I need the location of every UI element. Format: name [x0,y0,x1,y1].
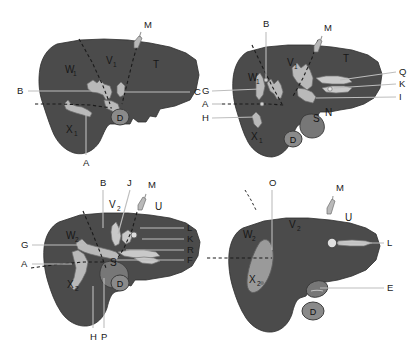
region-label-T-p1: T [153,59,159,70]
label-S-p3: S [110,257,117,268]
label-G-p2: G [202,85,209,96]
label-M-p2: M [324,22,332,33]
leader-B-endpoint-p2 [264,78,268,82]
region-sub-W1-p2: 1 [256,78,260,85]
region-label-V1-p1: V [106,55,113,66]
label-L-p3: L [187,222,192,233]
label-K-p3: K [187,233,194,244]
gallbladder-label-p1: D [117,113,124,123]
label-P-p3: P [101,331,107,342]
label-J-p3: J [127,177,132,188]
region-label-T-p2: T [343,53,349,64]
region-sub-V1-p2: 1 [294,63,298,70]
region-sub-X2-p3: 2 [75,285,79,292]
label-E-p4: E [387,282,393,293]
label-A-p2: A [202,98,209,109]
region-sub-X1-p2: 1 [259,137,263,144]
duct-lumen-p2 [328,87,332,91]
region-sub-V2-p3: 2 [117,205,121,212]
label-L-p4: L [387,237,392,248]
vessel-ring-p4 [327,238,337,248]
region-label-X1-p2: X [251,131,258,142]
label-B-p1: B [17,85,23,96]
label-I-p2: I [399,91,402,102]
label-Q-p2: Q [399,66,406,77]
gallbladder-label-p2: D [290,135,297,145]
label-N-p2: N [325,107,332,118]
gallbladder-label-p3: D [117,279,124,289]
liver-anatomy-figure: D W 1 V 1 T X 1 B C M A [0,0,414,354]
label-M-p1: M [144,19,152,30]
region-sub-W2-p3: 2 [75,236,79,243]
label-S-p2: S [313,113,320,124]
vessel-lumen-p3 [131,232,137,238]
label-C-p1: C [194,86,201,97]
region-label-V2-p3: V [109,199,116,210]
region-sub-W2-p4: 2 [252,235,256,242]
label-O-p4: O [269,177,276,188]
leader-A-endpoint-p2 [260,102,264,106]
region-sub-V1-p1: 1 [113,61,117,68]
region-label-V1-p2: V [287,57,294,68]
label-H-p3: H [90,331,97,342]
label-M-p4: M [336,182,344,193]
region-sub-V2-p4: 2 [297,225,301,232]
region-label-X1-p1: X [66,124,73,135]
label-A-p1: A [83,157,90,168]
label-M-p3: M [148,179,156,190]
label-B-p3: B [100,177,106,188]
region-sub-X2-p4: 2 [257,280,261,287]
region-label-U-p3: U [155,201,162,212]
label-G-p3: G [21,239,28,250]
label-B-p2: B [263,18,269,29]
label-A-p3: A [21,258,28,269]
gallbladder-label-p4: D [310,307,317,317]
label-K-p2: K [399,78,406,89]
label-F-p3: F [187,254,193,265]
region-sub-X1-p1: 1 [74,130,78,137]
region-label-X2-p4: X [249,274,256,285]
region-label-U-p4: U [345,212,352,223]
label-H-p2: H [202,112,209,123]
region-sub-W1-p1: 1 [73,70,77,77]
region-label-X2-p3: X [67,279,74,290]
region-label-V2-p4: V [289,219,296,230]
